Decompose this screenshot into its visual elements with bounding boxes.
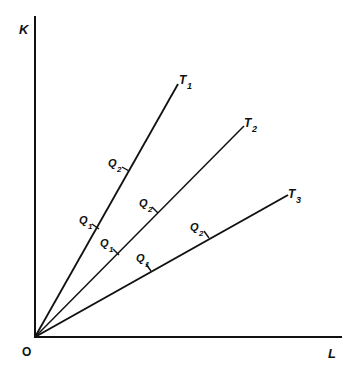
t3-q2-tick: [204, 231, 209, 238]
l-axis-label: L: [328, 346, 336, 361]
origin-label: O: [22, 345, 31, 359]
t2-q1-tick: [113, 249, 119, 255]
t2-q2-label: Q: [139, 197, 148, 209]
ray-t3-subscript: 3: [296, 195, 301, 205]
ray-t2: T 2 Q 2 Q 1: [35, 116, 257, 337]
t2-q1-label: Q: [100, 237, 109, 249]
t1-q2-label: Q: [108, 157, 117, 169]
t3-q2-subscript: 2: [198, 229, 204, 238]
ray-t1-subscript: 1: [187, 81, 192, 91]
t1-q2-tick: [122, 167, 129, 171]
t2-q2-tick: [152, 207, 158, 213]
t3-q1-subscript: 1: [145, 260, 150, 269]
t2-q2-subscript: 2: [147, 205, 153, 214]
production-technique-diagram: K L O T 1 Q 2 Q 1 T 2 Q 2 Q 1 T 3 Q 2: [0, 0, 362, 372]
t1-q2-subscript: 2: [116, 165, 122, 174]
ray-t1: T 1 Q 2 Q 1: [35, 73, 192, 337]
ray-t2-subscript: 2: [251, 124, 257, 134]
t3-q1-label: Q: [136, 252, 145, 264]
t3-q2-label: Q: [190, 221, 199, 233]
t1-q1-subscript: 1: [88, 222, 93, 231]
k-axis-label: K: [19, 22, 30, 37]
t2-q1-subscript: 1: [109, 245, 114, 254]
ray-t3: T 3 Q 2 Q 1: [35, 187, 301, 337]
t1-q1-label: Q: [79, 214, 88, 226]
